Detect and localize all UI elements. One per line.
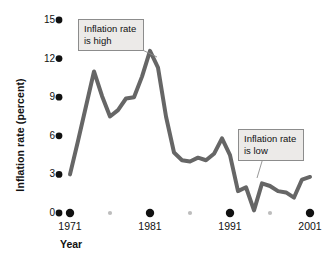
y-tick-label-9: 9 bbox=[33, 91, 55, 102]
leader-line-low bbox=[257, 158, 263, 178]
y-axis-tick-dots bbox=[56, 17, 63, 217]
x-tick-label-1971: 1971 bbox=[50, 220, 90, 232]
y-axis-title-wrap: Inflation rate (percent) bbox=[9, 60, 31, 210]
y-tick-label-3: 3 bbox=[33, 168, 55, 179]
y-axis-title: Inflation rate (percent) bbox=[14, 78, 26, 191]
annotation-inflation-high: Inflation rate is high bbox=[78, 19, 144, 51]
x-axis-minor-tick-dots bbox=[108, 211, 272, 215]
annotation-inflation-low: Inflation rate is low bbox=[238, 129, 304, 161]
y-tick-label-0: 0 bbox=[33, 207, 55, 218]
y-tick-label-6: 6 bbox=[33, 130, 55, 141]
y-tick-label-15: 15 bbox=[33, 14, 55, 25]
x-tick-label-1991: 1991 bbox=[210, 220, 250, 232]
x-tick-label-2001: 2001 bbox=[290, 220, 330, 232]
y-tick-label-12: 12 bbox=[33, 53, 55, 64]
inflation-rate-chart: 15 12 9 6 3 0 1971 1981 1991 2001 Year I… bbox=[0, 0, 335, 262]
x-tick-label-1981: 1981 bbox=[130, 220, 170, 232]
x-axis-title: Year bbox=[60, 238, 82, 250]
